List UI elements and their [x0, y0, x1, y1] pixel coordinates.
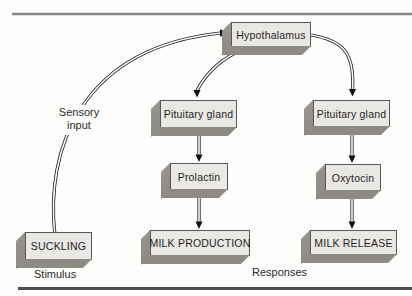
- node-label: Pituitary gland: [164, 108, 234, 120]
- arrow-hypothalamus-to-pituitary-left: [193, 49, 244, 98]
- node-hypothalamus: Hypothalamus: [231, 22, 311, 47]
- node-label: MILK RELEASE: [314, 237, 392, 249]
- node-oxytocin: Oxytocin: [325, 164, 381, 191]
- node-label: Pituitary gland: [317, 108, 387, 120]
- node-pituitary-left: Pituitary gland: [160, 100, 237, 128]
- node-suckling: SUCKLING: [25, 232, 92, 260]
- diagram-canvas: Hypothalamus Pituitary gland Pituitary g…: [0, 0, 412, 296]
- label-responses: Responses: [252, 266, 307, 279]
- node-milk-release: MILK RELEASE: [310, 230, 397, 255]
- node-label: SUCKLING: [31, 240, 86, 252]
- arrow-hypothalamus-to-pituitary-right: [311, 35, 356, 97]
- node-label: Prolactin: [178, 171, 221, 183]
- node-label: MILK PRODUCTION: [150, 237, 251, 249]
- node-pituitary-right: Pituitary gland: [313, 100, 390, 127]
- label-sensory-input: Sensory input: [47, 105, 111, 135]
- sensory-line2: input: [67, 119, 91, 131]
- node-label: Hypothalamus: [236, 29, 306, 41]
- node-prolactin: Prolactin: [170, 163, 228, 190]
- label-stimulus: Stimulus: [34, 268, 76, 281]
- sensory-line1: Sensory: [59, 106, 99, 118]
- node-label: Oxytocin: [332, 172, 374, 184]
- node-milk-production: MILK PRODUCTION: [150, 230, 250, 256]
